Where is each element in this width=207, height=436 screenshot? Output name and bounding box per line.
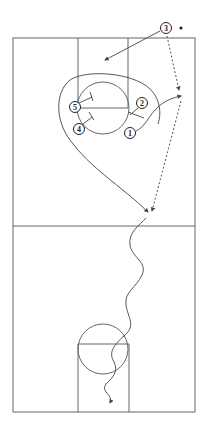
ball-icon [179, 26, 182, 29]
pass-arrow-3 [167, 36, 179, 90]
player-5[interactable]: 5 [70, 102, 81, 113]
player-5-label: 5 [73, 103, 77, 112]
player-4-label: 4 [77, 125, 81, 134]
player-2[interactable]: 2 [137, 98, 148, 109]
player-3-label: 3 [164, 24, 168, 33]
cut-arrow-3 [105, 31, 160, 60]
court-boundary [13, 38, 195, 412]
screen-4 [82, 117, 92, 125]
player-4[interactable]: 4 [74, 124, 85, 135]
player-2-label: 2 [140, 99, 144, 108]
bottom-free-throw-circle [78, 324, 128, 374]
play-diagram: 1 2 3 4 5 [0, 0, 207, 436]
dribble-arrow [104, 218, 146, 403]
actions [59, 31, 181, 403]
player-1[interactable]: 1 [125, 128, 136, 139]
court [13, 38, 195, 412]
pass-arrow-wing [152, 101, 181, 211]
screen-5 [79, 97, 92, 103]
player-1-label: 1 [128, 129, 132, 138]
screen-5-bar [90, 92, 93, 101]
curl-cut-arrow [59, 74, 160, 212]
player-3[interactable]: 3 [161, 23, 172, 34]
